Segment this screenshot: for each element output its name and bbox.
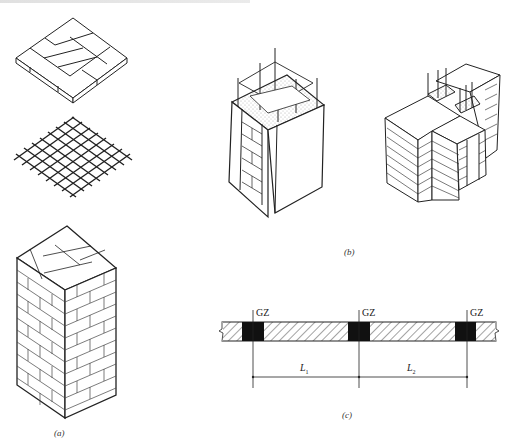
gz-column-3 [455, 322, 476, 341]
panel-a [14, 18, 132, 418]
dimension-l1: L1 [300, 362, 309, 375]
steel-mesh [14, 117, 132, 197]
gz-label-3: GZ [470, 307, 483, 318]
panel-b-corner-column [229, 48, 324, 217]
caption-c: (c) [342, 410, 352, 420]
dimension-l1-sub: 1 [306, 369, 309, 375]
panel-c-wall-plan [219, 310, 499, 388]
gz-label-2: GZ [362, 307, 375, 318]
gz-label-1: GZ [256, 307, 269, 318]
dimension-l2: L2 [407, 362, 416, 375]
caption-a: (a) [54, 428, 65, 438]
panel-b-t-junction [385, 64, 500, 202]
dimension-l2-sub: 2 [413, 369, 416, 375]
brick-pier [17, 226, 116, 418]
brick-course-slab [16, 18, 127, 103]
caption-b: (b) [344, 247, 355, 257]
